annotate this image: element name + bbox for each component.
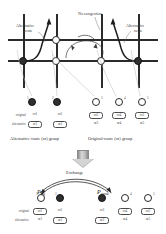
result-vehicle-index-4: 4: [130, 192, 132, 196]
row-label-alternative-bottom: alternative: [3, 218, 29, 222]
node-to-group-leaders: [0, 40, 166, 102]
result-chip-original-4: or4: [118, 208, 132, 215]
down-arrow-icon: [72, 150, 94, 169]
group-vehicle-circle-4: [115, 98, 123, 106]
figure-canvas: Alternative route No congestion Alternat…: [0, 0, 166, 234]
result-vehicle-index-3: 3: [107, 192, 109, 196]
group-vehicle-index-3: 3: [101, 96, 103, 100]
result-chip-original-3: or3: [95, 208, 109, 213]
result-chip-alternative-3: ar3: [95, 217, 109, 224]
result-chip-original-2: or2: [53, 208, 67, 213]
chip-alternative-3: ar3: [89, 121, 103, 126]
group-vehicle-circle-5: [138, 98, 146, 106]
result-vehicle-index-5: 5: [153, 192, 155, 196]
caption-alternative-route-group: Alternative-route (ar) group: [10, 136, 59, 141]
result-vehicle-index-2: 2: [55, 192, 57, 196]
group-vehicle-index-1: 1: [27, 96, 29, 100]
result-chip-original-5: or5: [141, 208, 155, 215]
result-chip-original-1: or1: [33, 208, 47, 215]
result-chip-alternative-5: ar5: [141, 217, 155, 222]
group-vehicle-circle-2: [53, 98, 61, 106]
result-chip-alternative-4: ar4: [118, 217, 132, 222]
result-chip-alternative-2: ar2: [53, 217, 67, 224]
group-vehicle-index-5: 5: [147, 96, 149, 100]
chip-original-5: or5: [135, 112, 149, 119]
chip-alternative-4: ar4: [112, 121, 126, 126]
caption-original-route-group: Original-route (or) group: [88, 136, 132, 141]
chip-alternative-5: ar5: [135, 121, 149, 126]
chip-alternative-2: ar2: [53, 121, 67, 128]
chip-original-4: or4: [112, 112, 126, 119]
result-chip-alternative-1: ar1: [33, 217, 47, 222]
group-vehicle-index-4: 4: [124, 96, 126, 100]
chip-alternative-1: ar1: [28, 121, 42, 128]
group-vehicle-circle-1: [28, 98, 36, 106]
group-vehicle-circle-3: [92, 98, 100, 106]
group-vehicle-index-2: 2: [52, 96, 54, 100]
chip-original-3: or3: [89, 112, 103, 119]
chip-original-2: or2: [53, 112, 67, 117]
row-label-alternative-left: alternative: [0, 122, 26, 126]
result-vehicle-index-1: 1: [36, 192, 38, 196]
row-label-original-bottom: original: [5, 209, 29, 213]
exchange-arcs: [0, 176, 166, 204]
row-label-original-left: original: [2, 113, 26, 117]
exchange-title: Exchange: [66, 170, 83, 175]
chip-original-1: or1: [28, 112, 42, 117]
